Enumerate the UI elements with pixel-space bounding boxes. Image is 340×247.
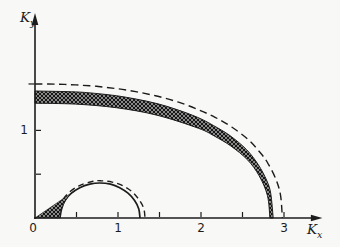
- chart-root: 01231KyKx: [19, 9, 323, 240]
- x-tick-label-2: 2: [197, 221, 205, 235]
- origin-tick-label: 0: [29, 221, 37, 235]
- upper-boundary-band-series: [35, 91, 273, 218]
- figure-page: 01231KyKx: [0, 0, 340, 247]
- x-tick-label-3: 3: [280, 221, 288, 235]
- stability-boundary-figure: 01231KyKx: [0, 0, 340, 247]
- origin-wedge-hatched-series: [35, 190, 75, 218]
- y-tick-label-1: 1: [20, 123, 28, 137]
- x-axis-label: Kx: [306, 221, 323, 240]
- lower-loop-dashed-series: [57, 181, 145, 218]
- chart-canvas: 01231KyKx: [0, 0, 340, 247]
- x-tick-label-1: 1: [114, 221, 122, 235]
- y-axis-label: Ky: [19, 9, 36, 28]
